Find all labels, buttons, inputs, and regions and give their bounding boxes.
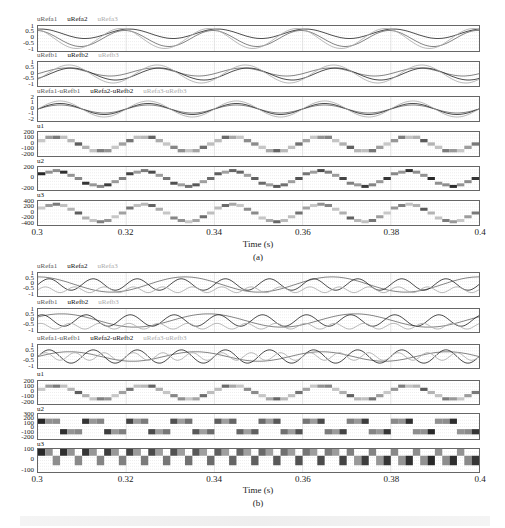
y-tick-label: -200 — [0, 399, 34, 406]
subfigure-label-b: (b) — [253, 498, 264, 508]
legend-uRefb2: uRefb2 — [68, 298, 89, 306]
y-tick-label: 0 — [0, 456, 34, 463]
legend-uRefa3: uRefa3 — [97, 262, 117, 270]
legend-uRefa2: uRefa2 — [67, 262, 87, 270]
x-tick-label: 0.32 — [118, 474, 134, 484]
panel-b2-legend: uRefa1-uRefb1uRefa2-uRefb2uRefa3-uRefb3 — [37, 334, 196, 342]
panel-b0-legend: uRefa1uRefa2uRefa3 — [37, 262, 128, 270]
y-tick-label: -1 — [0, 291, 34, 298]
x-tick-label: 0.36 — [295, 474, 311, 484]
legend-uRefa1: uRefa1 — [37, 262, 57, 270]
legend-u2: u2 — [37, 405, 44, 413]
x-tick-label: 0.3 — [31, 474, 42, 484]
y-tick-label: -1 — [0, 363, 34, 370]
x-tick-label: 0.4 — [474, 474, 485, 484]
legend-u3: u3 — [37, 440, 44, 448]
y-tick-label: -200 — [0, 434, 34, 441]
panel-b4 — [37, 413, 480, 440]
legend-uRefb1: uRefb1 — [37, 298, 58, 306]
panel-b5-legend: u3 — [37, 440, 54, 448]
panel-b4-legend: u2 — [37, 405, 54, 413]
legend-u1: u1 — [37, 370, 44, 378]
panel-b0 — [37, 272, 480, 297]
panel-b1 — [37, 308, 480, 333]
legend-diff1: uRefa1-uRefb1 — [37, 334, 80, 342]
x-axis-label-b: Time (s) — [243, 485, 273, 495]
panel-b3 — [37, 380, 480, 405]
panel-b5 — [37, 448, 480, 473]
figure-b: uRefa1uRefa2uRefa3 uRefb1uRefb2uRefb3 uR… — [0, 0, 505, 528]
legend-uRefb3: uRefb3 — [98, 298, 119, 306]
y-tick-label: -1 — [0, 327, 34, 334]
y-tick-label: -100 — [0, 467, 34, 474]
x-tick-label: 0.38 — [384, 474, 400, 484]
panel-b1-legend: uRefb1uRefb2uRefb3 — [37, 298, 129, 306]
legend-diff2: uRefa2-uRefb2 — [90, 334, 133, 342]
panel-b3-legend: u1 — [37, 370, 54, 378]
x-tick-label: 0.34 — [206, 474, 222, 484]
figure-caption-faded — [20, 516, 490, 526]
legend-diff3: uRefa3-uRefb3 — [143, 334, 186, 342]
panel-b2 — [37, 344, 480, 369]
y-tick-label: 100 — [0, 446, 34, 453]
